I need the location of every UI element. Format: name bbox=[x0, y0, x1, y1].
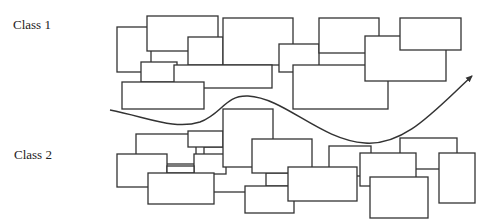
classification-diagram bbox=[0, 0, 486, 224]
class-2-sample-box bbox=[194, 154, 226, 174]
class-1-cluster bbox=[117, 16, 461, 109]
class-2-sample-box bbox=[167, 166, 194, 173]
class-1-sample-box bbox=[122, 82, 204, 109]
class-2-sample-box bbox=[288, 167, 357, 201]
class-2-sample-box bbox=[245, 186, 294, 213]
class-2-sample-box bbox=[266, 173, 290, 186]
class-1-sample-box bbox=[400, 18, 461, 50]
class-2-sample-box bbox=[370, 177, 428, 218]
class-2-sample-box bbox=[188, 131, 223, 147]
class-2-sample-box bbox=[148, 173, 214, 204]
class-2-cluster bbox=[117, 109, 475, 218]
class-2-sample-box bbox=[439, 153, 475, 203]
class-1-sample-box bbox=[141, 62, 177, 82]
class-1-sample-box bbox=[188, 37, 223, 65]
